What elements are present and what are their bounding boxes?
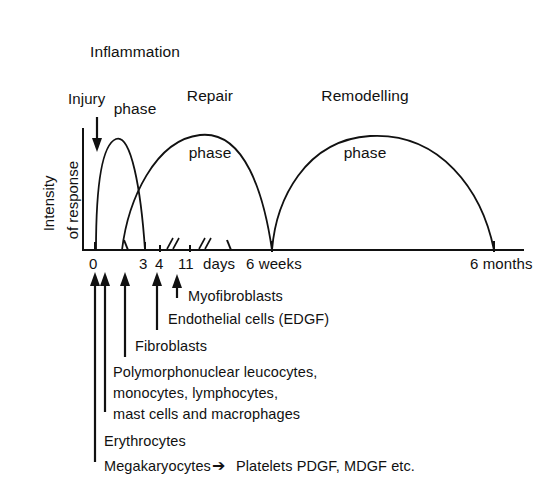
megakaryocytes-to-platelets-arrow-icon: ➔ — [212, 456, 225, 475]
y-axis-label-second: of response — [44, 161, 101, 256]
phase-title-remodelling: Remodelling phase — [290, 48, 440, 200]
x-tick-label-11: 11 — [178, 255, 194, 273]
injury-label: Injury — [68, 90, 105, 108]
annotation-endothelial-cells: Endothelial cells (EDGF) — [168, 310, 329, 329]
annotation-megakaryocytes: Megakaryocytes — [104, 457, 211, 476]
annotation-myofibroblasts: Myofibroblasts — [188, 287, 283, 306]
phase-remodelling-line2: phase — [290, 143, 440, 162]
tick-minor — [124, 240, 128, 250]
phase-repair-line1: Repair — [155, 86, 265, 105]
annotation-fibroblasts: Fibroblasts — [135, 337, 207, 356]
x-tick-label-4: 4 — [155, 255, 163, 273]
annotation-leucocytes-line3: mast cells and macrophages — [113, 405, 300, 424]
x-tick-label-6-weeks: 6 weeks — [246, 255, 302, 273]
annotation-erythrocytes: Erythrocytes — [104, 432, 186, 451]
phase-remodelling-line1: Remodelling — [290, 86, 440, 105]
annotation-leucocytes-line1: Polymorphonuclear leucocytes, — [113, 363, 317, 382]
y-axis-label-line2: of response — [64, 161, 81, 239]
x-tick-label-0: 0 — [89, 255, 97, 273]
phase-repair-line2: phase — [155, 143, 265, 162]
wound-healing-figure: Inflammation phase Repair phase Remodell… — [0, 0, 558, 498]
x-tick-label-days: days — [203, 255, 235, 273]
x-tick-label-3: 3 — [139, 255, 147, 273]
annotation-platelets: Platelets PDGF, MDGF etc. — [236, 457, 415, 476]
annotation-leucocytes-line2: monocytes, lymphocytes, — [113, 384, 278, 403]
x-tick-label-6-months: 6 months — [470, 255, 533, 273]
tick-minor-2 — [227, 240, 231, 250]
phase-title-repair: Repair phase — [155, 48, 265, 200]
